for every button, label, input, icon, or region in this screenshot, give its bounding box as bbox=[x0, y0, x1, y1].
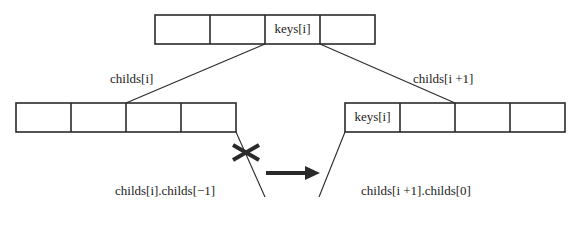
moved-child-label: childs[i].childs[−1] bbox=[115, 183, 215, 199]
old-child-pointer bbox=[236, 132, 265, 197]
left-child-label: childs[i] bbox=[110, 71, 153, 87]
right-child-label: childs[i +1] bbox=[413, 71, 473, 87]
arrow-right-icon bbox=[266, 166, 320, 180]
right-child-key-cell: keys[i] bbox=[345, 109, 400, 125]
cross-icon bbox=[233, 145, 259, 160]
new-child-label: childs[i +1].childs[0] bbox=[361, 183, 471, 199]
parent-key-cell: keys[i] bbox=[265, 21, 320, 37]
new-child-pointer bbox=[319, 132, 345, 197]
